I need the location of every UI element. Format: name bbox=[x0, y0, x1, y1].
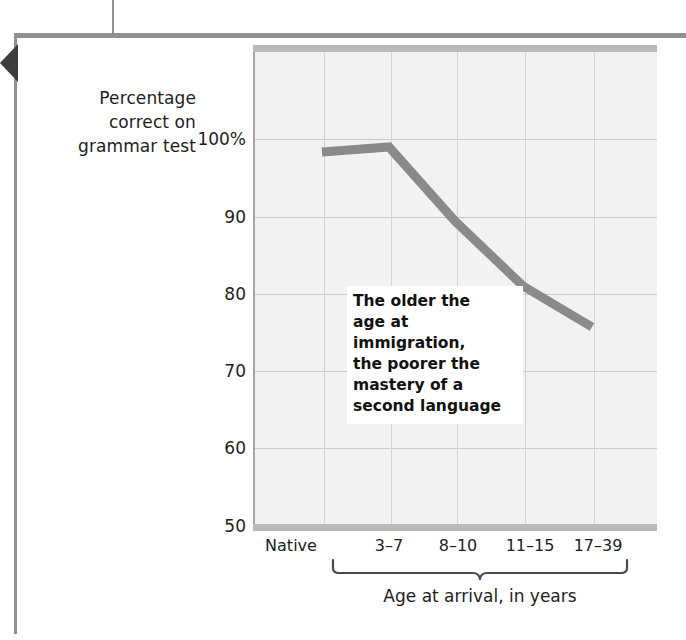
x-tick-label-17-39: 17–39 bbox=[574, 536, 623, 555]
x-axis-title: Age at arrival, in years bbox=[330, 586, 630, 606]
annotation-line-5: second language bbox=[353, 396, 517, 417]
x-tick-label-native: Native bbox=[265, 536, 317, 555]
y-axis-title: Percentage correct on grammar test bbox=[36, 86, 196, 158]
y-tick-label-70: 70 bbox=[186, 361, 246, 381]
line-chart: Percentage correct on grammar test 100% bbox=[0, 0, 686, 640]
y-tick-label-80: 80 bbox=[186, 284, 246, 304]
y-tick-label-60: 60 bbox=[186, 438, 246, 458]
x-tick-label-11-15: 11–15 bbox=[506, 536, 555, 555]
y-axis-title-line-3: grammar test bbox=[36, 134, 196, 158]
annotation-line-4: mastery of a bbox=[353, 375, 517, 396]
y-axis-title-line-2: correct on bbox=[36, 110, 196, 134]
x-axis-group-bracket-icon bbox=[330, 558, 630, 584]
annotation-line-3: the poorer the bbox=[353, 354, 517, 375]
x-tick-label-8-10: 8–10 bbox=[439, 536, 478, 555]
x-axis-ticks: Native 3–7 8–10 11–15 17–39 bbox=[253, 536, 655, 560]
y-tick-label-100: 100% bbox=[186, 129, 246, 149]
chart-annotation: The older the age at immigration, the po… bbox=[347, 286, 523, 424]
page-root: Percentage correct on grammar test 100% bbox=[0, 0, 686, 640]
annotation-line-1: The older the bbox=[353, 291, 517, 312]
bracket-path bbox=[333, 560, 627, 579]
y-axis-title-line-1: Percentage bbox=[36, 86, 196, 110]
y-tick-label-90: 90 bbox=[186, 207, 246, 227]
y-tick-label-50: 50 bbox=[186, 516, 246, 536]
annotation-line-2: age at immigration, bbox=[353, 312, 517, 354]
y-axis-ticks: 100% 90 80 70 60 50 bbox=[182, 52, 246, 530]
x-tick-label-3-7: 3–7 bbox=[375, 536, 403, 555]
plot-top-border bbox=[253, 45, 657, 52]
